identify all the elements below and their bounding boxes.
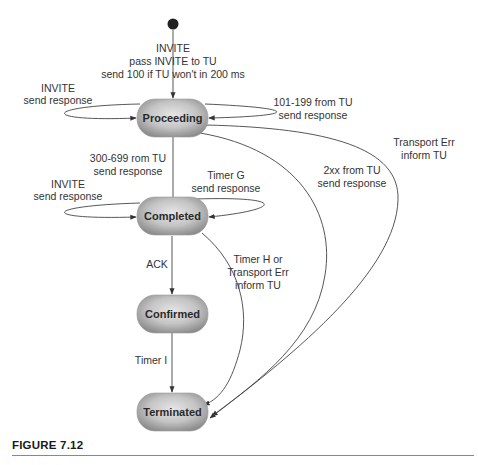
edge-label-start-line1: INVITE (156, 42, 190, 54)
edge-label-timer-h-line1: Timer H or (233, 253, 283, 265)
edge-label-proceeding-completed-line2: send response (94, 165, 163, 177)
edge-label-timer-h-line3: inform TU (235, 279, 281, 291)
edge-label-timer-g-line1: Timer G (207, 169, 245, 181)
edge-label-transport-line1: Transport Err (393, 136, 455, 148)
edge-label-timer-g-line2: send response (192, 182, 261, 194)
edge-label-start-line2: pass INVITE to TU (129, 55, 216, 67)
state-proceeding-label: Proceeding (143, 112, 203, 124)
edge-completed-self-invite (64, 203, 140, 217)
state-terminated-label: Terminated (143, 406, 201, 418)
edge-label-transport-line2: inform TU (401, 149, 447, 161)
state-terminated: Terminated (137, 393, 208, 431)
edge-label-proceeding-1xx-line2: send response (279, 109, 348, 121)
edge-label-completed-invite-line1: INVITE (51, 178, 85, 190)
edge-label-start-line3: send 100 if TU won't in 200 ms (101, 68, 245, 80)
invite-server-transaction-state-diagram: INVITE pass INVITE to TU send 100 if TU … (0, 0, 478, 465)
state-confirmed-label: Confirmed (145, 308, 200, 320)
edge-label-timer-i: Timer I (135, 354, 167, 366)
edge-label-completed-invite-line2: send response (34, 190, 103, 202)
edge-label-2xx-line1: 2xx from TU (324, 164, 381, 176)
edge-label-timer-h-line2: Transport Err (227, 266, 289, 278)
edge-label-ack: ACK (146, 258, 168, 270)
edge-proceeding-self-invite (64, 104, 140, 119)
edge-label-proceeding-invite-line2: send response (24, 94, 93, 106)
state-proceeding: Proceeding (137, 99, 208, 137)
state-completed: Completed (137, 197, 208, 235)
initial-state-dot (168, 19, 179, 30)
edge-label-2xx-line2: send response (318, 177, 387, 189)
caption-divider (12, 455, 474, 456)
edge-label-proceeding-invite-line1: INVITE (41, 82, 75, 94)
edge-proceeding-self-1xx (205, 104, 277, 118)
state-confirmed: Confirmed (137, 295, 208, 333)
state-completed-label: Completed (144, 210, 201, 222)
edge-label-proceeding-1xx-line1: 101-199 from TU (273, 96, 352, 108)
edge-label-proceeding-completed-line1: 300-699 rom TU (90, 152, 166, 164)
figure-caption: FIGURE 7.12 (12, 439, 83, 451)
